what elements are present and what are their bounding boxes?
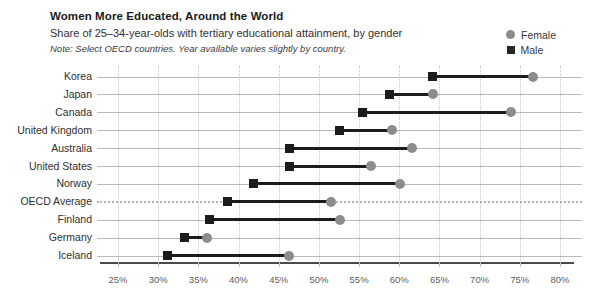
male-marker — [335, 126, 344, 135]
row-label-oecd-average: OECD Average — [0, 194, 92, 208]
row-connector — [253, 182, 400, 185]
female-marker — [395, 179, 405, 189]
chart-row: Finland — [0, 211, 594, 229]
x-tick-label: 80% — [550, 274, 569, 285]
row-label-finland: Finland — [0, 212, 92, 226]
x-tick-label: 65% — [430, 274, 449, 285]
chart-row: OECD Average — [0, 193, 594, 211]
male-marker — [285, 162, 294, 171]
x-tick-mark — [399, 262, 400, 267]
chart-container: Women More Educated, Around the World Sh… — [0, 0, 594, 303]
x-tick-label: 70% — [470, 274, 489, 285]
male-marker — [180, 233, 189, 242]
x-tick-mark — [279, 262, 280, 267]
male-marker — [163, 251, 172, 260]
row-baseline — [97, 94, 582, 95]
chart-row: Canada — [0, 104, 594, 122]
x-tick-label: 35% — [189, 274, 208, 285]
chart-row: United States — [0, 158, 594, 176]
female-marker — [506, 107, 516, 117]
female-marker — [366, 161, 376, 171]
row-label-korea: Korea — [0, 69, 92, 83]
row-label-canada: Canada — [0, 105, 92, 119]
x-tick-label: 45% — [269, 274, 288, 285]
female-marker — [528, 72, 538, 82]
chart-row: Korea — [0, 68, 594, 86]
x-tick-mark — [359, 262, 360, 267]
female-marker — [202, 233, 212, 243]
plot-area: KoreaJapanCanadaUnited KingdomAustraliaU… — [0, 0, 594, 303]
x-tick-mark — [520, 262, 521, 267]
row-connector — [167, 254, 289, 257]
x-tick-label: 75% — [510, 274, 529, 285]
chart-row: Japan — [0, 86, 594, 104]
x-tick-mark — [480, 262, 481, 267]
chart-row: Germany — [0, 229, 594, 247]
row-connector — [210, 218, 340, 221]
x-tick-label: 50% — [309, 274, 328, 285]
row-label-norway: Norway — [0, 176, 92, 190]
x-tick-mark — [198, 262, 199, 267]
male-marker — [428, 72, 437, 81]
chart-row: United Kingdom — [0, 122, 594, 140]
female-marker — [407, 143, 417, 153]
row-label-japan: Japan — [0, 87, 92, 101]
row-connector — [290, 147, 412, 150]
row-baseline — [97, 238, 582, 239]
chart-row: Australia — [0, 140, 594, 158]
x-tick-mark — [439, 262, 440, 267]
female-marker — [335, 215, 345, 225]
chart-row: Norway — [0, 175, 594, 193]
row-connector — [227, 200, 331, 203]
x-tick-label: 55% — [350, 274, 369, 285]
x-tick-mark — [560, 262, 561, 267]
row-connector — [362, 111, 511, 114]
male-marker — [358, 108, 367, 117]
male-marker — [249, 179, 258, 188]
x-tick-mark — [239, 262, 240, 267]
x-tick-mark — [118, 262, 119, 267]
female-marker — [326, 197, 336, 207]
x-axis-line — [100, 262, 574, 264]
x-tick-label: 30% — [149, 274, 168, 285]
row-connector — [339, 129, 392, 132]
x-tick-label: 40% — [229, 274, 248, 285]
row-label-united-states: United States — [0, 159, 92, 173]
row-label-united-kingdom: United Kingdom — [0, 123, 92, 137]
male-marker — [223, 197, 232, 206]
x-tick-label: 25% — [108, 274, 127, 285]
row-label-germany: Germany — [0, 230, 92, 244]
row-connector — [390, 93, 433, 96]
male-marker — [285, 144, 294, 153]
x-tick-mark — [319, 262, 320, 267]
row-baseline — [97, 201, 582, 203]
row-label-iceland: Iceland — [0, 248, 92, 262]
female-marker — [428, 89, 438, 99]
male-marker — [205, 215, 214, 224]
row-connector — [432, 75, 532, 78]
x-tick-mark — [158, 262, 159, 267]
x-tick-label: 60% — [390, 274, 409, 285]
row-label-australia: Australia — [0, 141, 92, 155]
female-marker — [284, 251, 294, 261]
female-marker — [387, 125, 397, 135]
row-connector — [290, 165, 371, 168]
male-marker — [385, 90, 394, 99]
